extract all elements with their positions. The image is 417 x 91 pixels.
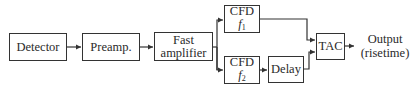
delay-label: Delay	[271, 63, 301, 76]
output-label: Output (risetime)	[354, 32, 416, 60]
output-line2: (risetime)	[354, 46, 416, 60]
cfd-f2-block: CFD f2	[224, 56, 260, 84]
cfd-f1-variable: f1	[238, 18, 245, 34]
detector-block: Detector	[9, 33, 67, 61]
cfd-f1-label: CFD	[230, 5, 254, 18]
fast-amplifier-block: Fast amplifier	[154, 32, 213, 61]
tac-label: TAC	[319, 40, 343, 53]
output-line1: Output	[354, 32, 416, 46]
cfd-f1-block: CFD f1	[224, 5, 260, 33]
tac-block: TAC	[316, 33, 345, 60]
preamp-block: Preamp.	[82, 33, 140, 61]
detector-label: Detector	[16, 41, 59, 54]
fast-amplifier-line1: Fast	[173, 34, 194, 47]
delay-block: Delay	[268, 56, 304, 83]
fast-amplifier-line2: amplifier	[161, 47, 207, 60]
preamp-label: Preamp.	[90, 41, 131, 54]
cfd-f2-label: CFD	[230, 56, 254, 69]
cfd-f2-variable: f2	[238, 69, 245, 85]
